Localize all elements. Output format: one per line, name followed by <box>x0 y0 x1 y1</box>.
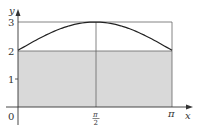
x-tick-label-half-pi-den: 2 <box>94 119 98 127</box>
y-axis-arrow-icon <box>16 9 21 16</box>
x-axis-label: x <box>185 110 191 121</box>
shaded-region <box>18 51 172 107</box>
x-tick-label-half-pi-num: π <box>92 111 98 119</box>
x-tick-label-0: 0 <box>8 111 14 122</box>
x-tick-label-pi: π <box>167 108 175 119</box>
y-tick-label-1: 1 <box>8 74 14 85</box>
y-tick-label-2: 2 <box>8 46 14 57</box>
y-axis-label: y <box>8 5 15 16</box>
y-tick-label-3: 3 <box>8 17 14 28</box>
x-axis-arrow-icon <box>186 105 193 110</box>
chart: y 3 2 1 0 π 2 π x <box>0 0 203 132</box>
sine-curve <box>18 22 172 50</box>
